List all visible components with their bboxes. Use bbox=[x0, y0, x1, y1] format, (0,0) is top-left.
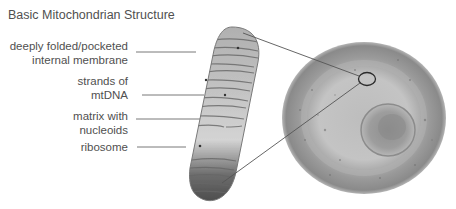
diagram-artwork bbox=[0, 0, 456, 209]
cell-illustration bbox=[282, 42, 446, 194]
mitochondrion-illustration bbox=[188, 27, 259, 201]
